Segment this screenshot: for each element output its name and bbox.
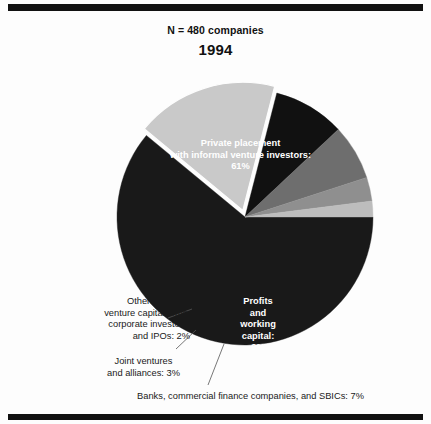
other-line-1: Other: Includes — [10, 296, 190, 308]
private-line-2: with informal venture investors: — [50, 150, 431, 162]
self-line-3: business contacts: — [258, 255, 388, 267]
pie-chart-figure: N = 480 companies 1994 Private placement… — [0, 0, 431, 424]
other-line-4: and IPOs: 2% — [10, 331, 190, 343]
other-line-2: venture capital firms, — [10, 308, 190, 320]
slice-label-private-placement: Private placement with informal venture … — [0, 138, 431, 173]
other-line-3: corporate investors, — [10, 319, 190, 331]
profits-line-1: Profits — [222, 296, 294, 308]
joint-line-1: Joint ventures — [66, 356, 221, 368]
bottom-rule-divider — [8, 414, 423, 420]
callout-label-banks: Banks, commercial finance companies, and… — [108, 391, 393, 403]
private-line-1: Private placement — [50, 138, 431, 150]
profits-line-3: working — [222, 319, 294, 331]
profits-line-4: capital: — [222, 331, 294, 343]
banks-line-1: Banks, commercial finance companies, and… — [108, 391, 393, 403]
callout-label-other: Other: Includes venture capital firms, c… — [10, 296, 190, 342]
private-line-3: 61% — [50, 161, 431, 173]
joint-line-2: and alliances: 3% — [66, 368, 221, 380]
profits-line-2: and — [222, 308, 294, 320]
profits-line-5: 9% — [222, 342, 294, 354]
self-line-2: and — [258, 244, 388, 256]
callout-label-joint-ventures: Joint ventures and alliances: 3% — [66, 356, 221, 379]
slice-label-profits-working-capital: Profits and working capital: 9% — [222, 296, 294, 354]
slice-label-self-family-friends: Self, family, friends, and business cont… — [258, 232, 388, 278]
self-line-4: 18% — [258, 267, 388, 279]
self-line-1: Self, family, friends, — [258, 232, 388, 244]
